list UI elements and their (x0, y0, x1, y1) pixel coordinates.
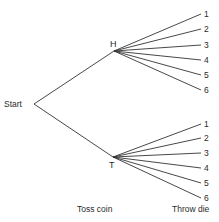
root-label: Start (4, 99, 22, 109)
t-die-4: 4 (204, 163, 209, 173)
t-die-1: 1 (204, 119, 209, 129)
node-heads: H (110, 39, 117, 49)
tree-branches (0, 0, 219, 222)
branch-start-h (34, 51, 114, 104)
h-die-3: 3 (204, 40, 209, 50)
stage-label-toss-coin: Toss coin (77, 204, 112, 214)
t-die-2: 2 (204, 133, 209, 143)
node-tails: T (109, 160, 115, 170)
h-die-1: 1 (204, 9, 209, 19)
h-die-6: 6 (204, 85, 209, 95)
t-die-6: 6 (204, 193, 209, 203)
h-die-4: 4 (204, 55, 209, 65)
h-die-2: 2 (204, 24, 209, 34)
t-die-3: 3 (204, 148, 209, 158)
branch-start-t (34, 104, 113, 157)
tree-diagram: Start H T 1 2 3 4 5 6 1 2 3 4 5 6 Toss c… (0, 0, 219, 222)
h-die-5: 5 (204, 70, 209, 80)
stage-label-throw-die: Throw die (172, 204, 209, 214)
t-die-5: 5 (204, 178, 209, 188)
